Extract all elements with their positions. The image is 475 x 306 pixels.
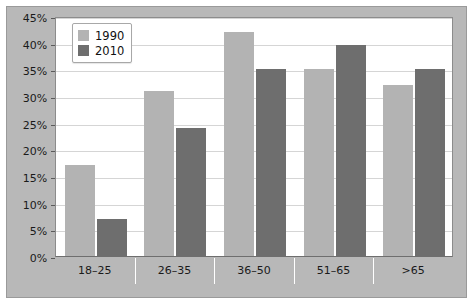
x-axis-category-label: 18–25 — [55, 258, 135, 284]
bar-2010->65[interactable] — [415, 69, 445, 256]
y-axis-tick-label: 30% — [7, 92, 47, 105]
x-axis-separator — [135, 258, 136, 284]
legend-swatch-2010-icon — [78, 45, 89, 56]
y-axis-tick-label: 20% — [7, 145, 47, 158]
y-axis-tick-label: 0% — [7, 252, 47, 265]
bar-2010-51–65[interactable] — [336, 45, 366, 256]
y-axis-tick-label: 5% — [7, 225, 47, 238]
legend-label-2010: 2010 — [95, 44, 124, 58]
x-axis: 18–2526–3536–5051–65>65 — [55, 258, 453, 284]
bar-group — [136, 18, 216, 256]
x-axis-category-label: 36–50 — [214, 258, 294, 284]
x-axis-separator — [214, 258, 215, 284]
x-axis-category-label: 26–35 — [135, 258, 215, 284]
y-axis-tick-label: 15% — [7, 172, 47, 185]
y-axis-tick-label: 10% — [7, 198, 47, 211]
bar-group — [295, 18, 375, 256]
y-axis-tick-label: 25% — [7, 118, 47, 131]
y-axis-tick-label: 45% — [7, 12, 47, 25]
bar-group — [374, 18, 454, 256]
bar-1990-51–65[interactable] — [304, 69, 334, 256]
x-axis-separator — [373, 258, 374, 284]
bar-1990-26–35[interactable] — [144, 91, 174, 256]
bar-1990->65[interactable] — [383, 85, 413, 256]
legend-swatch-1990-icon — [78, 30, 89, 41]
y-axis-tick-label: 35% — [7, 65, 47, 78]
y-axis: 0%5%10%15%20%25%30%35%40%45% — [9, 17, 55, 258]
bar-2010-36–50[interactable] — [256, 69, 286, 256]
x-axis-separator — [294, 258, 295, 284]
y-axis-tick-label: 40% — [7, 38, 47, 51]
chart-frame: 0%5%10%15%20%25%30%35%40%45% 18–2526–353… — [6, 6, 467, 298]
bar-1990-18–25[interactable] — [65, 165, 95, 256]
x-axis-category-label: >65 — [373, 258, 453, 284]
legend-item-1990[interactable]: 1990 — [78, 28, 124, 43]
bar-2010-18–25[interactable] — [97, 219, 127, 256]
legend-label-1990: 1990 — [95, 29, 124, 43]
bar-group — [215, 18, 295, 256]
bar-1990-36–50[interactable] — [224, 32, 254, 256]
chart-panel: 0%5%10%15%20%25%30%35%40%45% 18–2526–353… — [9, 9, 464, 295]
bar-2010-26–35[interactable] — [176, 128, 206, 256]
legend-item-2010[interactable]: 2010 — [78, 43, 124, 58]
x-axis-category-label: 51–65 — [294, 258, 374, 284]
chart-legend: 1990 2010 — [72, 23, 132, 63]
